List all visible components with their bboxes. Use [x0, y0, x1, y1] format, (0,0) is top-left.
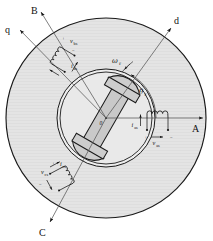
d-axis-label: d	[174, 15, 179, 26]
machine-cross-section-figure: 0 A B C d q θ r ω r	[0, 0, 213, 241]
phase-b-voltage-symbol: v	[70, 37, 73, 44]
phase-c-voltage-symbol: v	[41, 168, 44, 175]
phase-b-minus-sign: −	[72, 48, 75, 53]
phase-c-axis-label: C	[39, 227, 46, 238]
phase-a-current-symbol: i	[132, 121, 134, 128]
phase-c-voltage-subscript: cs	[45, 172, 49, 177]
phase-a-terminal-plus	[146, 129, 148, 131]
phase-b-axis-label: B	[31, 5, 38, 16]
omega-r-symbol: ω	[112, 57, 118, 65]
phase-c-current-subscript: cs	[63, 164, 67, 169]
phase-a-plus-sign: +	[145, 135, 148, 140]
machine-diagram-svg: 0 A B C d q θ r ω r	[0, 0, 213, 241]
phase-a-voltage-subscript: as	[156, 143, 160, 148]
phase-a-current-subscript: as	[134, 125, 138, 130]
phase-a-axis-label: A	[192, 123, 200, 134]
phase-b-plus-sign: +	[62, 36, 65, 41]
phase-c-plus-sign: +	[52, 161, 55, 166]
phase-a-terminal-minus	[167, 129, 169, 131]
phase-a-minus-sign: −	[170, 135, 173, 140]
q-axis-label: q	[5, 24, 10, 35]
phase-b-voltage-subscript: bs	[74, 41, 78, 46]
phase-c-minus-sign: −	[39, 182, 42, 187]
phase-b-current-subscript: bs	[74, 66, 78, 71]
phase-a-voltage-symbol: v	[153, 139, 156, 146]
